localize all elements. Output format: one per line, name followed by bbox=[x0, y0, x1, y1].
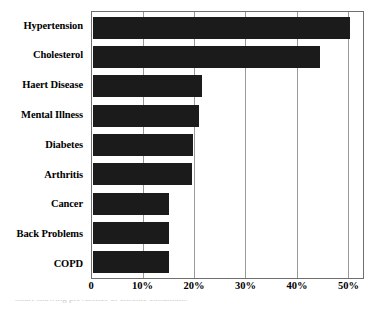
bars-container bbox=[92, 12, 363, 278]
bar-chart: HypertensionCholesterolHaert DiseaseMent… bbox=[0, 0, 379, 309]
bar bbox=[93, 222, 169, 244]
bar bbox=[93, 134, 193, 156]
x-axis-tick-label: 20% bbox=[184, 281, 205, 292]
y-axis-label: COPD bbox=[54, 259, 83, 270]
caption-text: Chart showing prevalence of chronic cond… bbox=[14, 300, 214, 303]
y-axis-label: Cholesterol bbox=[33, 50, 83, 61]
y-axis-label-cell: Hypertension bbox=[0, 11, 88, 41]
bar-row bbox=[92, 130, 363, 159]
bar bbox=[93, 163, 192, 185]
bar-row bbox=[92, 42, 363, 71]
bar-row bbox=[92, 72, 363, 101]
y-axis-label-cell: Haert Disease bbox=[0, 71, 88, 101]
y-axis-label: Diabetes bbox=[45, 140, 83, 151]
x-axis-tick-label: 40% bbox=[287, 281, 308, 292]
bar-row bbox=[92, 248, 363, 277]
y-axis-label: Cancer bbox=[51, 199, 83, 210]
bar-row bbox=[92, 160, 363, 189]
y-axis-category-labels: HypertensionCholesterolHaert DiseaseMent… bbox=[0, 11, 88, 279]
x-axis-tick-labels: 010%20%30%40%50% bbox=[91, 281, 364, 297]
y-axis-label: Mental Illness bbox=[21, 110, 83, 121]
y-axis-label: Haert Disease bbox=[22, 80, 83, 91]
bar bbox=[93, 193, 169, 215]
bar-row bbox=[92, 13, 363, 42]
y-axis-label: Hypertension bbox=[24, 21, 83, 32]
bar bbox=[93, 105, 199, 127]
plot-area bbox=[91, 11, 364, 279]
x-axis-tick-label: 50% bbox=[338, 281, 359, 292]
y-axis-label-cell: Cholesterol bbox=[0, 41, 88, 71]
bar-row bbox=[92, 189, 363, 218]
y-axis-label-cell: Diabetes bbox=[0, 130, 88, 160]
x-axis-tick-label: 10% bbox=[132, 281, 153, 292]
y-axis-label-cell: Mental Illness bbox=[0, 100, 88, 130]
bar bbox=[93, 75, 202, 97]
y-axis-label: Arthritis bbox=[44, 170, 83, 181]
y-axis-label: Back Problems bbox=[17, 229, 83, 240]
y-axis-label-cell: Back Problems bbox=[0, 219, 88, 249]
y-axis-label-cell: Cancer bbox=[0, 190, 88, 220]
bar bbox=[93, 251, 169, 273]
x-axis-tick-label: 30% bbox=[235, 281, 256, 292]
bar bbox=[93, 17, 350, 39]
x-axis-tick-label: 0 bbox=[88, 281, 93, 292]
y-axis-label-cell: Arthritis bbox=[0, 160, 88, 190]
y-axis-label-cell: COPD bbox=[0, 249, 88, 279]
caption-sliver: Chart showing prevalence of chronic cond… bbox=[14, 300, 214, 309]
bar-row bbox=[92, 218, 363, 247]
bar-row bbox=[92, 101, 363, 130]
bar bbox=[93, 46, 320, 68]
